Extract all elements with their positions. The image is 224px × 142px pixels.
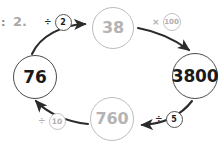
multiply-icon: ×	[152, 18, 160, 27]
value-node-3800-text: 3800	[172, 68, 219, 85]
value-node-3800[interactable]: 3800	[172, 53, 218, 99]
operand-badge-100[interactable]: 100	[163, 13, 181, 31]
value-node-76[interactable]: 76	[13, 55, 57, 99]
question-number: 2.	[13, 15, 27, 28]
divide-icon: ÷	[155, 115, 163, 124]
arrow-38-to-3800	[138, 28, 189, 50]
divide-icon: ÷	[44, 18, 52, 27]
edge-colon-mark: :	[1, 17, 5, 28]
value-node-760-text: 760	[96, 111, 129, 127]
operation-divide-by-2: ÷ 2	[44, 14, 72, 31]
value-node-76-text: 76	[23, 69, 46, 86]
value-node-760[interactable]: 760	[90, 97, 134, 141]
operand-badge-2[interactable]: 2	[55, 14, 72, 31]
operation-divide-by-5: ÷ 5	[155, 111, 183, 128]
operation-multiply-by-100: × 100	[152, 13, 181, 31]
divide-icon: ÷	[38, 117, 46, 126]
operand-badge-10[interactable]: 10	[49, 113, 66, 130]
operation-divide-by-10: ÷ 10	[38, 113, 66, 130]
operand-badge-5[interactable]: 5	[166, 111, 183, 128]
value-node-38[interactable]: 38	[92, 7, 134, 49]
worksheet-diagram: : 2. 76 38 3800 760 ÷ 2 × 100 ÷ 5 ÷ 10	[0, 0, 224, 142]
value-node-38-text: 38	[102, 20, 124, 36]
